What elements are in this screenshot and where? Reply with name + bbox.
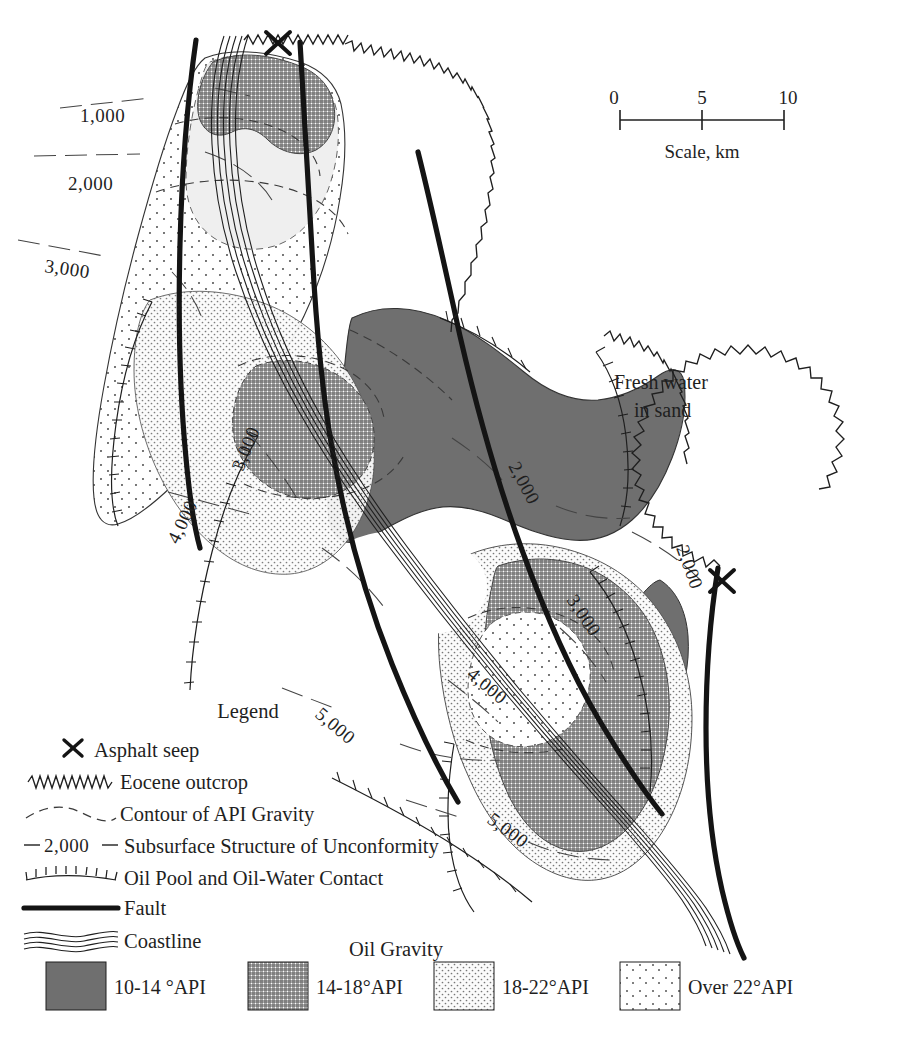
oil-gravity-class-10-14: 10-14 °API bbox=[46, 962, 206, 1010]
legend-row-eocene-outcrop: Eocene outcrop bbox=[28, 771, 248, 794]
scale-bar: 0 5 10 Scale, km bbox=[609, 87, 797, 162]
asphalt-seep-x-icon bbox=[64, 740, 82, 756]
scale-bar-label: Scale, km bbox=[665, 141, 740, 162]
swatch-14-18 bbox=[248, 962, 308, 1010]
swatch-18-22 bbox=[434, 962, 494, 1010]
legend-structure-value: 2,000 bbox=[44, 835, 89, 856]
oil-gravity-class-18-22: 18-22°API bbox=[434, 962, 589, 1010]
map-canvas: 1,000 2,000 3,000 3,000 4,000 2,000 2,00… bbox=[0, 0, 904, 1043]
swatch-10-14 bbox=[46, 962, 106, 1010]
legend-label-fault: Fault bbox=[124, 897, 166, 919]
legend: Legend Asphalt seep Eocene outcrop Conto… bbox=[24, 700, 440, 952]
fault-far-east bbox=[706, 568, 744, 958]
fresh-water-line2: in sand bbox=[634, 399, 691, 421]
legend-row-api-gravity: Contour of API Gravity bbox=[26, 803, 315, 826]
legend-label-api-gravity: Contour of API Gravity bbox=[120, 803, 315, 826]
contour-label-5000-mid: 5,000 bbox=[311, 703, 359, 748]
contour-label-2000-east: 2,000 bbox=[672, 542, 707, 592]
oil-gravity-class-over-22: Over 22°API bbox=[620, 962, 793, 1010]
coastline-wavy-icon bbox=[24, 931, 118, 951]
swatch-over-22 bbox=[620, 962, 680, 1010]
swatch-label-18-22: 18-22°API bbox=[502, 976, 589, 998]
legend-row-coastline: Coastline bbox=[24, 930, 201, 952]
swatch-label-14-18: 14-18°API bbox=[316, 976, 403, 998]
legend-label-oil-pool: Oil Pool and Oil-Water Contact bbox=[124, 867, 383, 889]
swatch-label-over-22: Over 22°API bbox=[688, 976, 793, 998]
geological-map-figure: 1,000 2,000 3,000 3,000 4,000 2,000 2,00… bbox=[0, 0, 904, 1043]
eocene-outcrop-zigzag-icon bbox=[28, 776, 112, 788]
contour-label-3000-left: 3,000 bbox=[43, 255, 91, 282]
swatch-label-10-14: 10-14 °API bbox=[114, 976, 206, 998]
legend-row-fault: Fault bbox=[24, 897, 166, 919]
legend-row-subsurface-structure: 2,000 Subsurface Structure of Unconformi… bbox=[24, 835, 440, 858]
legend-row-oil-pool: Oil Pool and Oil-Water Contact bbox=[26, 866, 383, 889]
legend-row-asphalt-seep: Asphalt seep bbox=[64, 739, 199, 762]
contour-label-2000-left: 2,000 bbox=[68, 173, 113, 194]
api-gravity-dashed-icon bbox=[26, 807, 116, 821]
oil-gravity-class-14-18: 14-18°API bbox=[248, 962, 403, 1010]
legend-label-eocene-outcrop: Eocene outcrop bbox=[120, 771, 248, 794]
legend-label-coastline: Coastline bbox=[124, 930, 201, 952]
contour-label-1000: 1,000 bbox=[80, 105, 125, 126]
oil-gravity-title: Oil Gravity bbox=[349, 938, 444, 961]
legend-label-subsurface-structure: Subsurface Structure of Unconformity bbox=[124, 835, 440, 858]
oil-pool-ticks-icon bbox=[26, 866, 117, 880]
scale-tick-0: 0 bbox=[609, 87, 619, 108]
scale-tick-10: 10 bbox=[779, 87, 798, 108]
legend-title: Legend bbox=[217, 700, 278, 723]
scale-tick-5: 5 bbox=[697, 87, 707, 108]
fresh-water-line1: Fresh water bbox=[614, 371, 708, 393]
legend-label-asphalt-seep: Asphalt seep bbox=[94, 739, 199, 762]
